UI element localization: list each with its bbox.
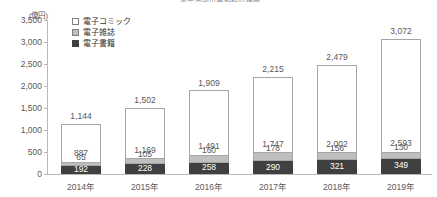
bar-label-magazine: 65 [76,153,85,162]
y-axis-tick-mark [44,42,48,43]
y-axis-tick-label: 2,500 [2,60,42,69]
bar-label-book: 192 [74,165,88,174]
bar-label-book: 349 [394,161,408,170]
bar-label-book: 290 [266,163,280,172]
x-axis-tick-label: 2014年 [50,180,112,192]
bar-segment-magazine[interactable] [253,153,293,161]
y-axis-tick-mark [44,64,48,65]
y-axis-tick-mark [44,152,48,153]
y-axis-tick-label: 500 [2,148,42,157]
bar-total-label: 1,909 [198,79,219,88]
bar-total-label: 2,215 [262,65,283,74]
bar-series-group: 887192651,1441,1692281051,5021,491258160… [48,20,432,174]
y-axis-tick-mark [44,108,48,109]
bar-label-book: 321 [330,162,344,171]
bar-segment-comic[interactable]: 2,002 [317,65,357,153]
bar-group: 887192651,144 [50,20,112,174]
bar-segment-book[interactable]: 349 [381,159,421,174]
x-axis-tick-label: 2017年 [242,180,304,192]
stacked-bar[interactable]: 887192 [61,124,101,174]
bar-total-label: 1,144 [70,112,91,121]
y-axis-tick-label: 2,000 [2,82,42,91]
bar-label-book: 228 [138,164,152,173]
bar-label-magazine: 178 [266,144,280,153]
bar-segment-book[interactable]: 258 [189,163,229,174]
bar-label-magazine: 130 [394,143,408,152]
x-axis-tick-label: 2018年 [306,180,368,192]
bar-label-book: 258 [202,163,216,172]
stacked-bar[interactable]: 2,002321 [317,65,357,174]
bar-total-label: 3,072 [390,27,411,36]
stacked-bar[interactable]: 1,491258 [189,90,229,174]
bar-total-label: 2,479 [326,53,347,62]
bar-label-magazine: 160 [202,146,216,155]
chart-container: 電子出版市場規模の推移 (億円) 電子コミック電子雑誌電子書籍 3,5003,0… [0,0,437,197]
y-axis-tick-label: 1,000 [2,126,42,135]
bar-segment-book[interactable]: 228 [125,164,165,174]
x-axis-tick-label: 2019年 [370,180,432,192]
bar-total-label: 1,502 [134,96,155,105]
y-axis-tick-label: 3,500 [2,16,42,25]
bar-group: 1,4912581601,909 [178,20,240,174]
bar-segment-comic[interactable]: 2,593 [381,39,421,153]
bar-label-magazine: 105 [138,150,152,159]
y-axis-tick-mark [44,174,48,175]
y-axis-tick-label: 1,500 [2,104,42,113]
y-axis-tick-mark [44,130,48,131]
y-axis-tick-mark [44,20,48,21]
bar-segment-book[interactable]: 290 [253,161,293,174]
bar-label-magazine: 156 [330,144,344,153]
bar-segment-book[interactable]: 321 [317,160,357,174]
x-axis-tick-label: 2015年 [114,180,176,192]
bar-segment-magazine[interactable] [317,153,357,160]
stacked-bar[interactable]: 2,593349 [381,39,421,174]
bar-segment-comic[interactable]: 1,747 [253,77,293,154]
y-axis-tick-mark [44,86,48,87]
stacked-bar[interactable]: 1,747290 [253,77,293,174]
y-axis-tick-label: 0 [2,170,42,179]
bar-group: 2,5933491303,072 [370,20,432,174]
stacked-bar[interactable]: 1,169228 [125,108,165,174]
plot-area: 3,5003,0002,5002,0001,5001,0005000 88719… [47,20,432,175]
x-axis-tick-label: 2016年 [178,180,240,192]
chart-title-cropped: 電子出版市場規模の推移 [180,0,320,2]
bar-group: 1,7472901782,215 [242,20,304,174]
bar-group: 1,1692281051,502 [114,20,176,174]
bar-group: 2,0023211562,479 [306,20,368,174]
bar-segment-book[interactable]: 192 [61,166,101,174]
y-axis-tick-label: 3,000 [2,38,42,47]
x-axis-line [47,174,432,175]
